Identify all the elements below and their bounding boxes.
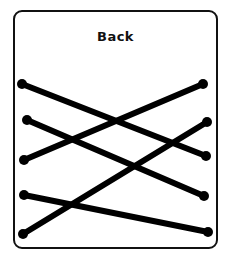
line-4-endpoint-2 bbox=[203, 227, 213, 237]
line-5-endpoint-2 bbox=[202, 117, 212, 127]
line-5 bbox=[23, 122, 207, 234]
line-4-endpoint-1 bbox=[19, 190, 29, 200]
line-2-endpoint-1 bbox=[22, 115, 32, 125]
line-2-endpoint-2 bbox=[199, 191, 209, 201]
line-3-endpoint-1 bbox=[19, 155, 29, 165]
crossed-lines-figure bbox=[0, 0, 231, 263]
line-1-endpoint-1 bbox=[17, 79, 27, 89]
line-2 bbox=[27, 120, 204, 196]
line-1-endpoint-2 bbox=[201, 151, 211, 161]
line-5-endpoint-1 bbox=[18, 229, 28, 239]
line-3-endpoint-2 bbox=[198, 79, 208, 89]
